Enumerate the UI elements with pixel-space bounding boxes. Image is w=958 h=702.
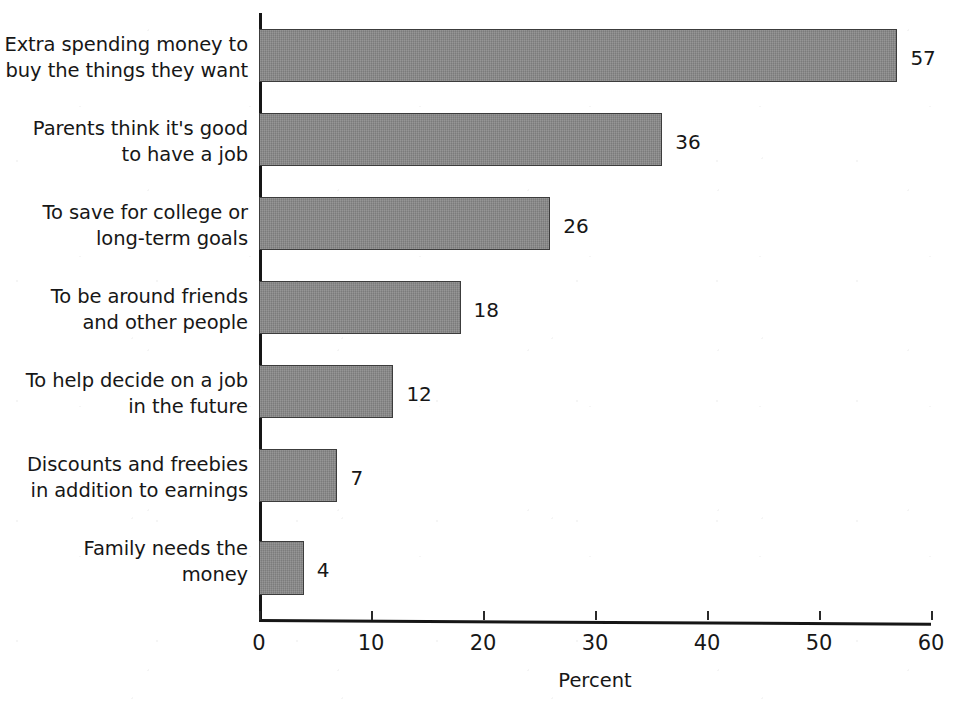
bar-value-3: 18 (474, 300, 499, 320)
x-axis-line (259, 619, 931, 626)
x-tick-label-5: 50 (789, 631, 849, 655)
bar-2 (259, 197, 550, 250)
bar-3 (259, 281, 461, 334)
x-tick-label-3: 30 (565, 631, 625, 655)
x-tick-5 (819, 611, 821, 620)
bar-6 (259, 541, 304, 595)
category-label-5: Discounts and freebies in addition to ea… (0, 452, 248, 504)
bar-chart: Extra spending money to buy the things t… (0, 0, 958, 702)
x-axis-title: Percent (259, 669, 931, 692)
x-tick-1 (371, 611, 373, 620)
bar-value-5: 7 (350, 468, 363, 488)
bar-5 (259, 449, 337, 502)
x-tick-6 (931, 611, 933, 620)
category-label-1: Parents think it's good to have a job (0, 116, 248, 168)
bar-4 (259, 365, 393, 418)
category-label-3: To be around friends and other people (0, 284, 248, 336)
x-tick-0 (259, 611, 261, 620)
category-label-6: Family needs the money (0, 536, 248, 588)
bar-0 (259, 29, 897, 82)
x-tick-label-4: 40 (677, 631, 737, 655)
x-tick-label-1: 10 (341, 631, 401, 655)
x-tick-2 (483, 611, 485, 620)
x-tick-label-2: 20 (453, 631, 513, 655)
x-tick-label-6: 60 (901, 631, 958, 655)
category-label-4: To help decide on a job in the future (0, 368, 248, 420)
bar-1 (259, 113, 662, 166)
category-label-2: To save for college or long-term goals (0, 200, 248, 252)
bar-value-0: 57 (910, 48, 935, 68)
category-label-0: Extra spending money to buy the things t… (0, 32, 248, 84)
plot-area: 57 36 26 18 12 7 4 0 10 20 30 40 50 60 P… (259, 13, 931, 622)
x-tick-3 (595, 611, 597, 620)
bar-value-4: 12 (406, 384, 431, 404)
bar-value-6: 4 (317, 560, 330, 580)
bar-value-1: 36 (675, 132, 700, 152)
x-tick-4 (707, 611, 709, 620)
x-tick-label-0: 0 (229, 631, 289, 655)
bar-value-2: 26 (563, 216, 588, 236)
